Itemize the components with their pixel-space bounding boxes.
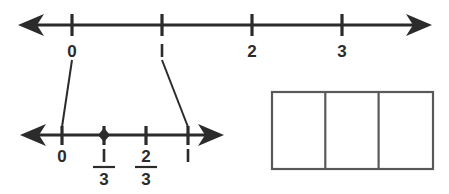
figure-canvas: 0 1 2 3 0 1 [0,0,449,194]
thirds-number-line: 0 1 3 2 3 1 [20,124,224,189]
connector-one [162,60,188,127]
two-thirds-denominator: 3 [141,170,150,189]
top-label-0: 0 [67,42,76,61]
top-label-3: 3 [337,42,346,61]
point-marker-one-third [98,128,110,142]
top-label-2: 2 [247,42,256,61]
two-thirds-numerator: 2 [141,147,150,166]
connector-group [62,60,188,127]
one-third-denominator: 3 [99,170,108,189]
whole-number-line: 0 1 2 3 [18,14,432,61]
area-model-outline [272,92,433,169]
bottom-label-0: 0 [57,147,66,166]
fraction-figure: 0 1 2 3 0 1 [0,0,449,194]
thirds-area-model [272,92,433,169]
bottom-label-one-third: 1 3 [93,149,115,189]
bottom-label-two-thirds: 2 3 [135,147,157,189]
connector-zero [62,60,72,127]
